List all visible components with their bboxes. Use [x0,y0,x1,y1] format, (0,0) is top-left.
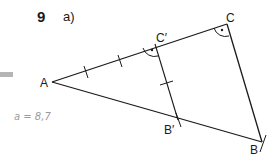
label-point-a: A [40,76,48,90]
tick-marks-ac [84,55,122,78]
side-ab [52,82,262,142]
label-point-bprime: B′ [164,123,175,137]
label-point-cprime: C′ [156,31,168,45]
side-cb [227,24,262,142]
handwritten-note: a = 8,7 [14,111,51,122]
side-ac [52,24,227,82]
right-angle-mark-c [214,28,229,37]
triangle-diagram: A C C′ B′ B a = 8,7 [0,0,278,161]
label-point-b: B [250,143,258,157]
label-point-c: C [226,11,235,25]
segment-cprime-bprime [155,44,178,120]
